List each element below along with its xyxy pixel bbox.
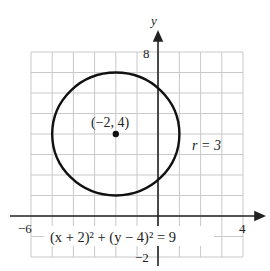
center-point: [113, 131, 119, 137]
x-axis-arrow-icon: [255, 212, 264, 220]
circle-graph: y 8 −2 −6 4 (−2, 4) r = 3 (x + 2)² + (y …: [0, 0, 270, 271]
y-axis-arrow-icon: [154, 32, 162, 41]
equation-label: (x + 2)² + (y − 4)² = 9: [50, 229, 176, 246]
center-label: (−2, 4): [91, 115, 130, 131]
x-min-tick-label: −6: [18, 221, 32, 236]
x-max-tick-label: 4: [239, 221, 246, 236]
radius-label: r = 3: [192, 138, 221, 153]
y-axis-label: y: [149, 13, 157, 28]
y-max-tick-label: 8: [143, 46, 150, 61]
y-min-tick-label: −2: [135, 250, 149, 265]
